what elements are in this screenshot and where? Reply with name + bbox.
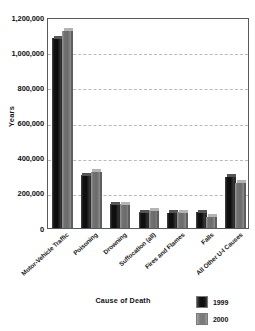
bar-face (91, 172, 100, 228)
bar-1999-3 (110, 204, 119, 228)
bar-side (128, 204, 130, 228)
chart-legend: 19992000 (196, 296, 254, 330)
bar-face (225, 177, 234, 228)
bar-group (139, 19, 158, 228)
bar-1999-1 (52, 38, 61, 228)
legend-label: 2000 (213, 316, 228, 323)
bar-2000-4 (149, 210, 158, 228)
bar-top-cap (208, 214, 217, 217)
x-axis-title: Cause of Death (58, 296, 188, 305)
bar-side (157, 210, 159, 228)
legend-swatch-icon (196, 296, 208, 308)
y-axis-tick-label: 1,000,000 (0, 49, 44, 58)
bars-layer (48, 19, 248, 228)
bar-top-cap (150, 208, 159, 211)
bar-1999-2 (81, 175, 90, 228)
bar-face (177, 212, 186, 228)
bar-side (186, 212, 188, 228)
bar-face (110, 204, 119, 228)
bar-side (100, 172, 102, 228)
y-axis-tick-label: 600,000 (0, 119, 44, 128)
bar-top-cap (237, 180, 246, 183)
bar-face (196, 212, 205, 228)
legend-item-2000: 2000 (196, 313, 254, 325)
bar-face (62, 31, 71, 228)
bar-side (71, 31, 73, 228)
bar-face (139, 212, 148, 228)
bar-top-cap (179, 210, 188, 213)
y-axis-tick-label: 800,000 (0, 84, 44, 93)
x-axis-tick-labels: Motor-Vehicle TrafficPoisoningDrowningSu… (47, 229, 249, 291)
y-axis-tick-label: 1,200,000 (0, 14, 44, 23)
bar-1999-4 (139, 212, 148, 228)
bar-top-cap (227, 174, 236, 177)
plot-area (47, 18, 249, 229)
bar-face (52, 38, 61, 228)
bar-top-cap (121, 202, 130, 205)
bar-top-cap (92, 169, 101, 172)
bar-2000-3 (120, 204, 129, 228)
bar-side (215, 217, 217, 228)
bar-2000-2 (91, 172, 100, 228)
bar-top-cap (64, 28, 73, 31)
bar-1999-6 (196, 212, 205, 228)
bar-face (120, 204, 129, 228)
bar-group (110, 19, 129, 228)
bar-face (167, 213, 176, 228)
bar-side (244, 183, 246, 228)
bar-2000-1 (62, 31, 71, 228)
bar-group (225, 19, 244, 228)
bar-group (81, 19, 100, 228)
y-axis-tick-label: 200,000 (0, 189, 44, 198)
bar-face (206, 217, 215, 228)
bar-1999-7 (225, 177, 234, 228)
bar-face (149, 210, 158, 228)
y-axis-tick-label: 400,000 (0, 154, 44, 163)
bar-group (196, 19, 215, 228)
bar-face (81, 175, 90, 228)
legend-item-1999: 1999 (196, 296, 254, 308)
y-axis-tick-label: 0 (0, 225, 44, 234)
legend-swatch-icon (196, 313, 208, 325)
bar-group (52, 19, 71, 228)
bar-2000-7 (235, 183, 244, 228)
bar-top-cap (198, 210, 207, 213)
bar-group (167, 19, 186, 228)
legend-label: 1999 (213, 299, 228, 306)
bar-2000-5 (177, 212, 186, 228)
bar-1999-5 (167, 213, 176, 228)
bar-face (235, 183, 244, 228)
bar-chart: Years 1,200,0001,000,000800,000600,00040… (0, 0, 255, 331)
bar-2000-6 (206, 217, 215, 228)
